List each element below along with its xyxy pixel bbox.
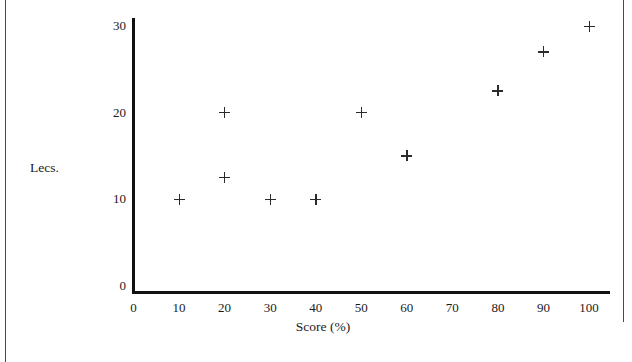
x-tick-label: 30 xyxy=(255,301,285,314)
scatter-plot: 0102030 0102030405060708090100 Lecs. Sco… xyxy=(0,0,632,362)
x-axis-line xyxy=(132,291,610,294)
x-tick-label: 100 xyxy=(574,301,604,314)
data-point-marker xyxy=(538,46,549,57)
figure: 0102030 0102030405060708090100 Lecs. Sco… xyxy=(0,0,632,362)
data-point-marker xyxy=(492,85,503,96)
x-tick-label: 50 xyxy=(346,301,376,314)
y-axis-line xyxy=(132,18,135,294)
y-tick-label: 20 xyxy=(96,106,126,119)
data-point-marker xyxy=(219,172,230,183)
data-point-marker xyxy=(401,150,412,161)
x-tick-label: 80 xyxy=(483,301,513,314)
x-tick-label: 60 xyxy=(392,301,422,314)
data-point-marker xyxy=(265,194,276,205)
y-tick-label: 10 xyxy=(96,192,126,205)
x-axis-title: Score (%) xyxy=(0,320,632,334)
y-tick-label: 30 xyxy=(96,19,126,32)
data-point-marker xyxy=(219,107,230,118)
y-tick-label: 0 xyxy=(96,279,126,292)
x-tick-label: 90 xyxy=(528,301,558,314)
x-tick-label: 70 xyxy=(437,301,467,314)
x-tick-label: 20 xyxy=(210,301,240,314)
x-tick-label: 40 xyxy=(301,301,331,314)
data-point-marker xyxy=(356,107,367,118)
y-axis-title: Lecs. xyxy=(30,161,59,175)
x-tick-label: 10 xyxy=(164,301,194,314)
x-tick-label: 0 xyxy=(119,301,149,314)
data-point-marker xyxy=(310,194,321,205)
data-point-marker xyxy=(174,194,185,205)
data-point-marker xyxy=(584,21,595,32)
